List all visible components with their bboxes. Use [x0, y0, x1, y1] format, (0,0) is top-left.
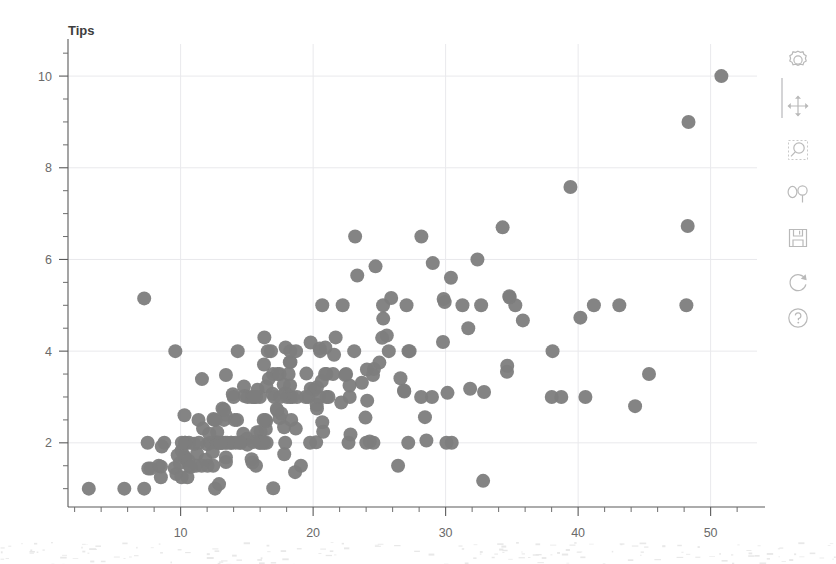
data-point — [288, 465, 302, 479]
data-point — [168, 344, 182, 358]
y-tick-label: 8 — [45, 161, 52, 175]
data-point — [144, 461, 158, 475]
data-point — [318, 367, 332, 381]
data-point — [270, 402, 284, 416]
settings-icon[interactable] — [778, 42, 818, 78]
data-point — [366, 368, 380, 382]
data-point — [137, 291, 151, 305]
y-tick-label: 6 — [45, 253, 52, 267]
data-point — [289, 344, 303, 358]
zoom-in-out-icon[interactable] — [778, 176, 818, 212]
data-point — [277, 447, 291, 461]
data-point — [338, 368, 352, 382]
data-point — [141, 436, 155, 450]
data-point — [369, 259, 383, 273]
data-point — [376, 312, 390, 326]
data-point — [257, 413, 271, 427]
data-point — [375, 331, 389, 345]
move-icon[interactable] — [778, 88, 818, 124]
data-point — [455, 298, 469, 312]
data-point — [299, 367, 313, 381]
data-point — [682, 115, 696, 129]
data-point — [289, 422, 303, 436]
data-point — [403, 344, 417, 358]
data-point — [444, 271, 458, 285]
data-point — [282, 367, 296, 381]
data-point — [477, 385, 491, 399]
save-icon[interactable] — [778, 220, 818, 256]
data-point — [231, 344, 245, 358]
data-point — [155, 439, 169, 453]
data-point — [117, 482, 131, 496]
y-tick-label: 10 — [38, 70, 52, 84]
data-point — [382, 344, 396, 358]
plot-window: 1020304050246810 Tips — [0, 0, 836, 564]
data-point — [219, 368, 233, 382]
data-point — [391, 459, 405, 473]
data-point — [628, 399, 642, 413]
data-point — [329, 330, 343, 344]
data-point — [426, 256, 440, 270]
data-point — [563, 180, 577, 194]
data-point — [474, 298, 488, 312]
data-point — [470, 252, 484, 266]
data-point — [350, 269, 364, 283]
data-point — [642, 367, 656, 381]
data-point — [372, 356, 386, 370]
refresh-icon[interactable] — [778, 264, 818, 300]
data-point — [360, 394, 374, 408]
data-point — [418, 410, 432, 424]
data-point — [177, 408, 191, 422]
data-point — [233, 436, 247, 450]
data-point — [336, 298, 350, 312]
data-point — [436, 335, 450, 349]
data-point — [266, 481, 280, 495]
data-point — [587, 298, 601, 312]
data-point — [303, 436, 317, 450]
data-point — [476, 474, 490, 488]
data-point — [202, 427, 216, 441]
data-point — [500, 359, 514, 373]
data-points — [82, 69, 729, 496]
data-point — [290, 390, 304, 404]
data-point — [175, 436, 189, 450]
y-axis-title: Tips — [68, 23, 95, 38]
data-point — [313, 344, 327, 358]
zoom-region-icon[interactable] — [778, 132, 818, 168]
data-point — [419, 434, 433, 448]
data-point — [348, 230, 362, 244]
scatter-chart[interactable]: 1020304050246810 Tips — [0, 0, 770, 564]
data-point — [217, 403, 231, 417]
data-point — [516, 313, 530, 327]
data-point — [681, 219, 695, 233]
data-point — [208, 482, 222, 496]
data-point — [358, 411, 372, 425]
data-point — [400, 298, 414, 312]
data-point — [714, 69, 728, 83]
data-point — [175, 470, 189, 484]
data-point — [503, 291, 517, 305]
data-point — [195, 372, 209, 386]
data-point — [347, 344, 361, 358]
data-point — [359, 436, 373, 450]
data-point — [401, 436, 415, 450]
data-point — [82, 482, 96, 496]
data-point — [679, 298, 693, 312]
data-point — [384, 291, 398, 305]
x-tick-label: 10 — [174, 526, 188, 540]
data-point — [573, 311, 587, 325]
data-point — [257, 330, 271, 344]
help-icon[interactable] — [778, 300, 818, 336]
data-point — [249, 459, 263, 473]
data-point — [612, 298, 626, 312]
data-point — [393, 371, 407, 385]
data-point — [414, 390, 428, 404]
data-point — [496, 220, 510, 234]
data-point — [414, 230, 428, 244]
data-point — [437, 292, 451, 306]
tool-palette[interactable] — [770, 0, 836, 564]
data-point — [554, 390, 568, 404]
data-point — [439, 436, 453, 450]
plot-panel: 1020304050246810 Tips — [0, 0, 770, 564]
data-point — [440, 386, 454, 400]
